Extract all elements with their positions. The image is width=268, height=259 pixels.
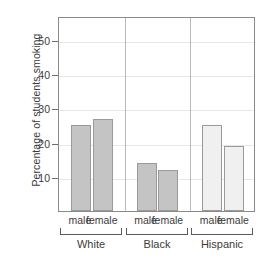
x-tick-label: female: [86, 214, 118, 226]
group-label: White: [77, 238, 105, 250]
y-tick-label: 30: [28, 103, 50, 115]
y-tick-label: 40: [28, 69, 50, 81]
plot-area: [58, 17, 255, 212]
bar: [71, 125, 91, 211]
bar: [224, 146, 244, 211]
x-axis-tick-labels: malefemalemalefemalemalefemale: [0, 214, 268, 228]
x-tick-label: female: [217, 214, 249, 226]
x-tick-label: female: [152, 214, 184, 226]
bar: [93, 119, 113, 211]
group-axis-labels: WhiteBlackHispanic: [0, 238, 268, 254]
bar: [158, 170, 178, 211]
panel-divider: [125, 18, 126, 211]
bar: [202, 125, 222, 211]
group-bracket: [126, 228, 188, 235]
gridline: [59, 42, 254, 43]
y-tick-label: 10: [28, 172, 50, 184]
group-brackets: [0, 228, 268, 238]
y-tick-label: 50: [28, 35, 50, 47]
bar-chart: Percentage of students smoking 102030405…: [0, 0, 268, 259]
group-label: Black: [144, 238, 171, 250]
group-bracket: [60, 228, 122, 235]
y-tick-label: 20: [28, 138, 50, 150]
gridline: [59, 76, 254, 77]
gridline: [59, 110, 254, 111]
panel-divider: [190, 18, 191, 211]
group-bracket: [191, 228, 253, 235]
bar: [137, 163, 157, 211]
group-label: Hispanic: [201, 238, 243, 250]
